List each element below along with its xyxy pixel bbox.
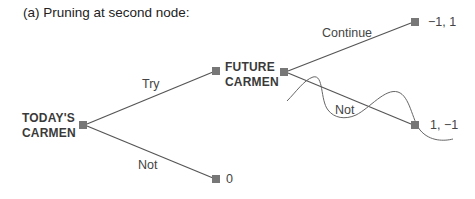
terminal-continue-square	[411, 18, 419, 26]
node-today-line1: TODAY'S	[22, 111, 74, 126]
node-today-square	[79, 121, 87, 129]
game-tree	[0, 0, 475, 199]
terminal-not-second-square	[411, 121, 419, 129]
node-future-line2: CARMEN	[225, 75, 275, 90]
node-future-label: FUTURE CARMEN	[225, 60, 275, 90]
node-future-in-square	[212, 67, 220, 75]
payoff-not-first: 0	[226, 172, 233, 186]
node-future-out-square	[280, 68, 288, 76]
prune-curve	[287, 77, 453, 140]
node-today-line2: CARMEN	[22, 126, 74, 141]
edge-label-not-second: Not	[335, 103, 354, 117]
payoff-continue: −1, 1	[428, 15, 456, 29]
edge-label-try: Try	[142, 77, 160, 91]
node-future-line1: FUTURE	[225, 60, 275, 75]
node-today-label: TODAY'S CARMEN	[22, 111, 74, 141]
terminal-not-first-square	[212, 175, 220, 183]
edge-label-continue: Continue	[322, 26, 372, 40]
payoff-not-second: 1, −1	[430, 118, 458, 132]
edge-label-not-first: Not	[138, 158, 157, 172]
